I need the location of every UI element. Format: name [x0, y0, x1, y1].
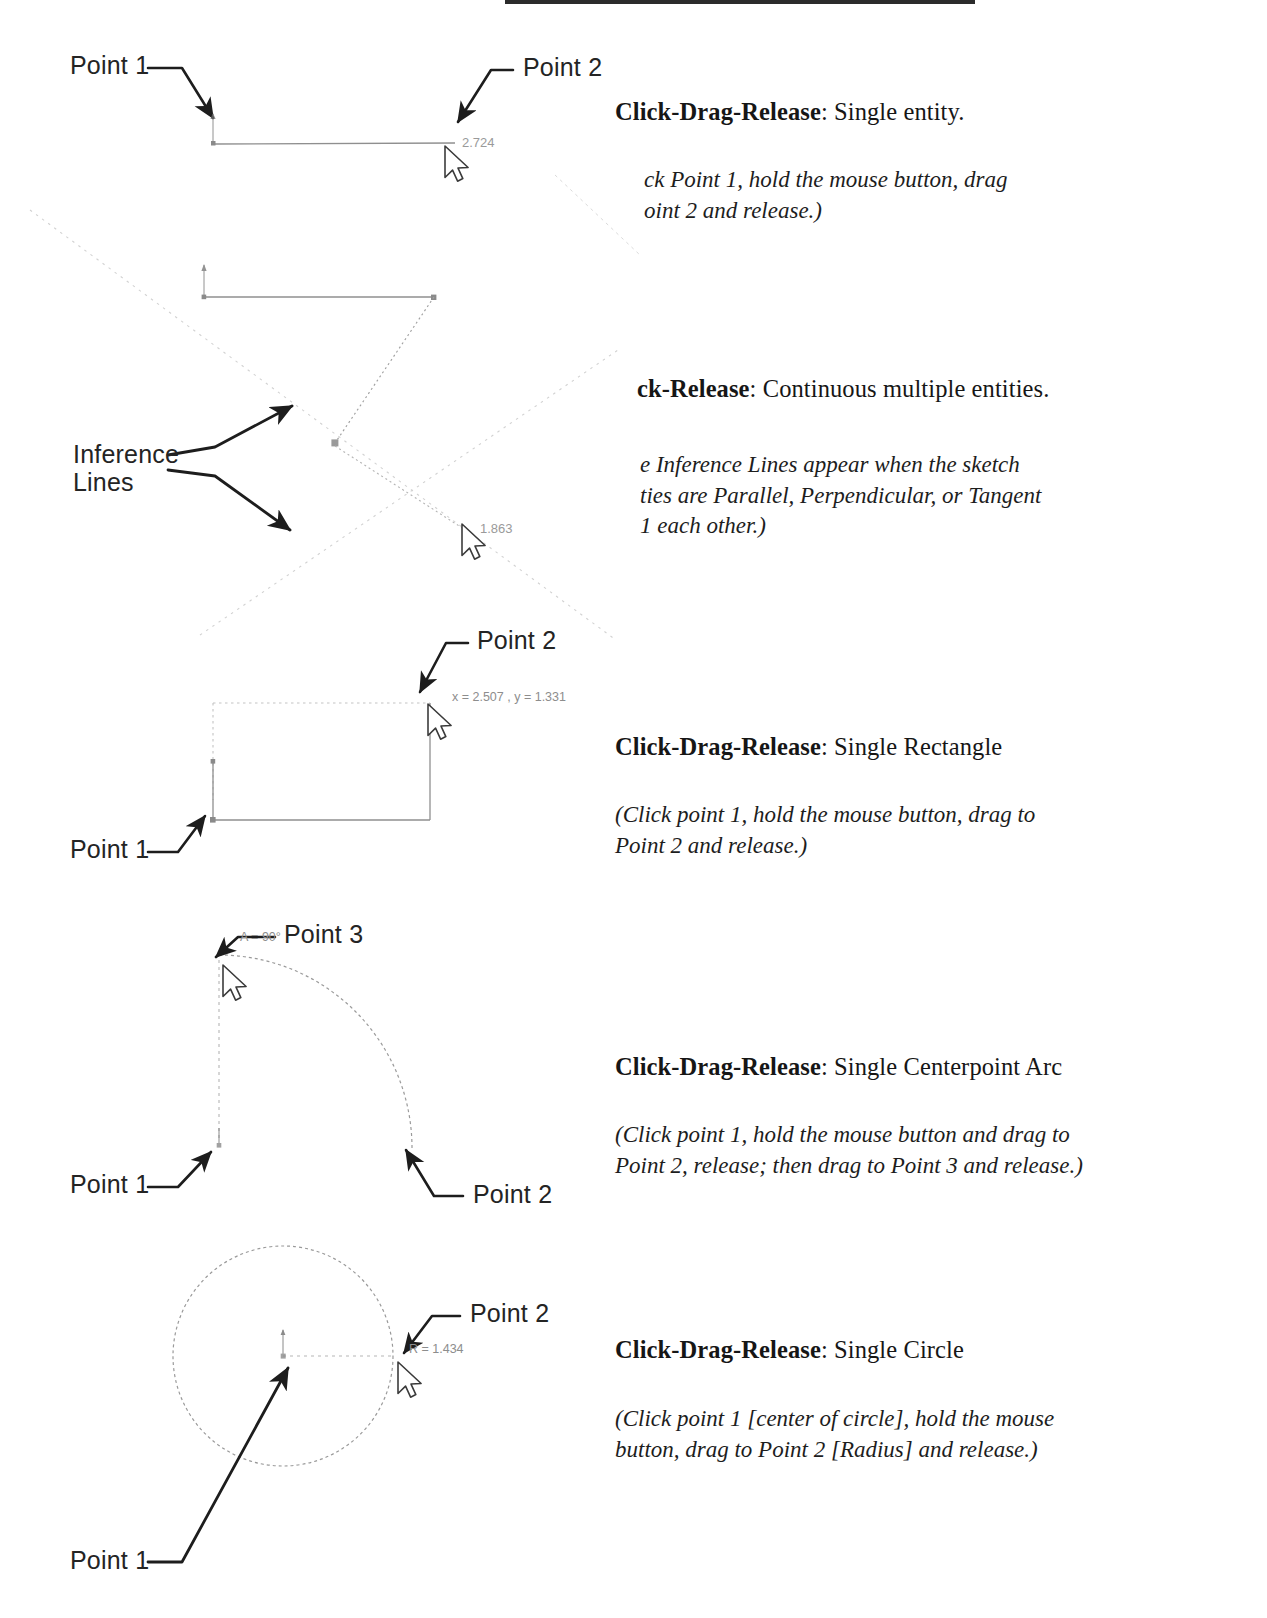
callout-arc-point2: Point 2: [473, 1180, 552, 1209]
section-heading-bold-rectangle: Click-Drag-Release: [615, 733, 821, 760]
figure-rectangle: [148, 643, 468, 852]
section-heading-line: Click-Drag-Release: Single entity.: [615, 98, 965, 126]
callout-rect-point1: Point 1: [70, 835, 149, 864]
note-rect-line-1: (Click point 1, hold the mouse button, d…: [615, 800, 1195, 831]
callout-inference-lines-line1: Inference: [73, 440, 179, 469]
callout-line-point1: Point 1: [70, 51, 149, 80]
callout-line-point2: Point 2: [523, 53, 602, 82]
rect-origin-marker: [210, 817, 216, 823]
section-heading-multi: ck-Release: Continuous multiple entities…: [637, 375, 1049, 403]
section-heading-rest-multi: : Continuous multiple entities.: [750, 375, 1050, 402]
note-circle-line-2: button, drag to Point 2 [Radius] and rel…: [615, 1435, 1215, 1466]
sketch-line-to-cursor: [335, 446, 470, 533]
section-heading-bold-arc: Click-Drag-Release: [615, 1053, 821, 1080]
document-page: Point 1 Point 2 Inference Lines Point 2 …: [0, 0, 1267, 1618]
leader-line-point2: [458, 70, 513, 122]
section-heading-rest-rectangle: : Single Rectangle: [821, 733, 1002, 760]
figure-centerpoint-arc: [148, 937, 463, 1196]
note-multi-line-2: ties are Parallel, Perpendicular, or Tan…: [640, 481, 1220, 512]
sketch-endpoint-icon: [211, 141, 216, 146]
figure-single-line: [148, 68, 640, 255]
figure-continuous-entities: [30, 210, 618, 640]
note-arc-line-1: (Click point 1, hold the mouse button an…: [615, 1120, 1235, 1151]
section-heading-bold-multi: ck-Release: [637, 375, 750, 402]
arc-entity: [219, 955, 412, 1148]
leader-inference-upper: [168, 406, 292, 455]
sketch-line-slanted: [335, 297, 434, 443]
section-heading-circle: Click-Drag-Release: Single Circle: [615, 1336, 964, 1364]
sketch-vertex-marker: [331, 439, 338, 446]
sketch-endpoint-icon-2a: [202, 295, 207, 300]
leader-arc-point2: [406, 1150, 463, 1196]
callout-arc-point3: Point 3: [284, 920, 363, 949]
callout-inference-lines-line2: Lines: [73, 468, 134, 497]
leader-rect-point2: [420, 643, 468, 692]
note-line-1: ck Point 1, hold the mouse button, drag: [644, 165, 1204, 196]
inference-line-faint: [555, 175, 640, 255]
note-arc-line-2: Point 2, release; then drag to Point 3 a…: [615, 1151, 1235, 1182]
readout-line-length: 2.724: [462, 135, 495, 150]
section-heading-arc: Click-Drag-Release: Single Centerpoint A…: [615, 1053, 1062, 1081]
inference-line-diagonal-a: [30, 210, 616, 640]
readout-arc-angle: A = 90°: [240, 930, 281, 944]
callout-rect-point2: Point 2: [477, 626, 556, 655]
callout-circle-point1: Point 1: [70, 1546, 149, 1575]
section-note-rectangle: (Click point 1, hold the mouse button, d…: [615, 800, 1195, 861]
leader-inference-lower: [168, 470, 290, 530]
note-multi-line-1: e Inference Lines appear when the sketch: [640, 450, 1220, 481]
note-multi-line-3: 1 each other.): [640, 511, 1220, 542]
arc-center-icon: [217, 1128, 222, 1148]
section-heading-rest-arc: : Single Centerpoint Arc: [821, 1053, 1062, 1080]
section-heading-bold-circle: Click-Drag-Release: [615, 1336, 821, 1363]
note-rect-line-2: Point 2 and release.): [615, 831, 1195, 862]
leader-rect-point1: [148, 816, 205, 852]
circle-center-icon: [281, 1329, 286, 1359]
mouse-cursor-icon-3: [428, 704, 451, 739]
readout-rect-coords: x = 2.507 , y = 1.331: [452, 690, 566, 704]
inference-line-diagonal-b: [200, 350, 618, 635]
readout-multiline-length: 1.863: [480, 521, 513, 536]
rect-midpoint-marker: [211, 759, 216, 764]
section-heading-rectangle: Click-Drag-Release: Single Rectangle: [615, 733, 1002, 761]
figure-circle: [148, 1246, 460, 1562]
sketch-origin-icon: [210, 113, 215, 143]
section-heading-bold-line: Click-Drag-Release: [615, 98, 821, 125]
note-circle-line-1: (Click point 1 [center of circle], hold …: [615, 1404, 1215, 1435]
section-note-multi: e Inference Lines appear when the sketch…: [640, 450, 1220, 542]
sketch-line-entity: [214, 143, 455, 144]
leader-line-point1: [148, 68, 213, 118]
section-note-line: ck Point 1, hold the mouse button, drag …: [644, 165, 1204, 226]
section-heading-rest-circle: : Single Circle: [821, 1336, 964, 1363]
mouse-cursor-icon-5: [398, 1362, 421, 1397]
section-note-arc: (Click point 1, hold the mouse button an…: [615, 1120, 1235, 1181]
mouse-cursor-icon-4: [223, 965, 246, 1000]
note-line-2: oint 2 and release.): [644, 196, 1204, 227]
sketch-origin-icon-2: [201, 264, 206, 296]
callout-arc-point1: Point 1: [70, 1170, 149, 1199]
leader-arc-point1: [148, 1152, 211, 1187]
section-note-circle: (Click point 1 [center of circle], hold …: [615, 1404, 1215, 1465]
mouse-cursor-icon: [445, 146, 468, 181]
readout-circle-radius: R = 1.434: [409, 1342, 464, 1356]
callout-circle-point2: Point 2: [470, 1299, 549, 1328]
section-heading-rest-line: : Single entity.: [821, 98, 965, 125]
